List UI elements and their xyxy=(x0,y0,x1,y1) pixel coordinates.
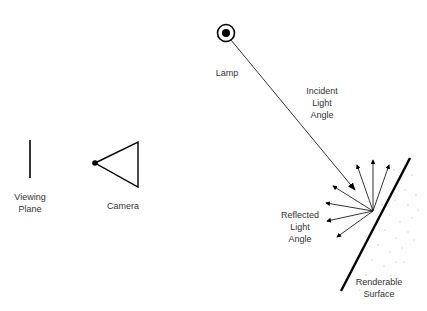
camera-label: Camera xyxy=(100,200,146,212)
reflected-rays xyxy=(326,160,389,237)
reflected-angle-label: Reflected Light Angle xyxy=(275,209,325,245)
camera-icon xyxy=(92,142,138,187)
viewing-plane-label: Viewing Plane xyxy=(5,191,55,215)
surface-line xyxy=(341,158,410,291)
lamp-label: Lamp xyxy=(209,67,245,79)
renderable-surface-label: Renderable Surface xyxy=(348,276,410,300)
diagram-canvas xyxy=(0,0,427,311)
lamp-icon xyxy=(218,25,235,42)
incident-angle-label: Incident Light Angle xyxy=(300,85,344,121)
